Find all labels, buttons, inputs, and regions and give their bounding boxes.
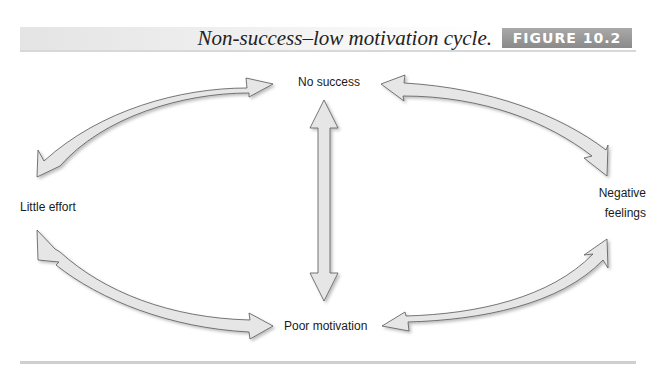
node-negative-feelings-line2: feelings bbox=[599, 203, 646, 223]
node-no-success: No success bbox=[298, 75, 360, 89]
node-little-effort: Little effort bbox=[20, 200, 76, 214]
arrow-success-motivation bbox=[310, 100, 338, 301]
node-negative-feelings: Negative feelings bbox=[599, 183, 646, 223]
node-negative-feelings-line1: Negative bbox=[599, 183, 646, 203]
arrow-success-feelings bbox=[381, 75, 608, 176]
arrow-motivation-effort bbox=[37, 230, 273, 339]
arrow-effort-success bbox=[37, 78, 273, 177]
node-poor-motivation: Poor motivation bbox=[284, 319, 367, 333]
arrow-feelings-motivation bbox=[382, 239, 608, 331]
bottom-rule bbox=[20, 361, 636, 364]
cycle-arrows bbox=[0, 0, 668, 371]
